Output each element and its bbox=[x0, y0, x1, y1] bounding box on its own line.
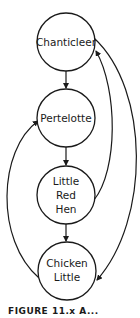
node-pertelotte: Pertelotte bbox=[37, 89, 95, 147]
node-chicken-little-label-line2: Little bbox=[54, 271, 80, 283]
node-pertelotte-label: Pertelotte bbox=[40, 112, 91, 124]
node-chicken-little-label-line1: Chicken bbox=[46, 257, 88, 269]
directed-graph-diagram: Chanticleer Pertelotte Little Red Hen Ch… bbox=[0, 0, 140, 318]
node-little-red-hen-label-line2: Red bbox=[56, 189, 76, 201]
node-little-red-hen: Little Red Hen bbox=[37, 166, 95, 224]
node-little-red-hen-label-line1: Little bbox=[53, 175, 79, 187]
edge-chanticleer-to-chicken-little bbox=[94, 38, 136, 280]
edge-little-red-hen-to-chanticleer bbox=[94, 51, 112, 200]
node-little-red-hen-label-line3: Hen bbox=[55, 203, 76, 215]
node-chanticleer: Chanticleer bbox=[36, 13, 97, 71]
figure-caption: FIGURE 11.x A... bbox=[8, 306, 99, 316]
edge-chicken-little-to-pertelotte bbox=[7, 121, 39, 278]
node-chicken-little: Chicken Little bbox=[38, 242, 96, 300]
node-chanticleer-label: Chanticleer bbox=[36, 36, 97, 48]
